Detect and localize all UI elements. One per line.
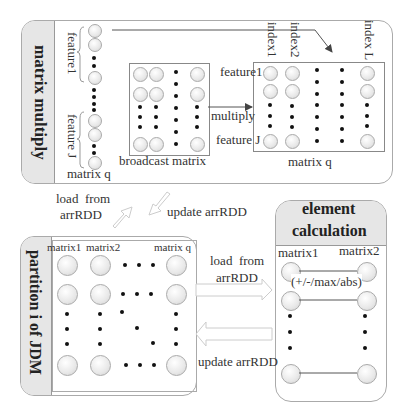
update-down-arrow-icon [149,192,170,215]
load-up-arrow-icon [113,207,132,228]
update-left-arrow-icon [196,322,272,346]
feature-arrow [112,30,332,52]
load-right-arrow-icon [196,279,272,300]
connector-lines [0,0,410,409]
